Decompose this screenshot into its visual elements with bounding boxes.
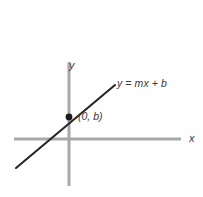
y-intercept-point-marker — [66, 114, 73, 121]
y-axis-label: y — [69, 60, 75, 71]
graph-canvas — [0, 0, 203, 197]
equation-label: y = mx + b — [117, 78, 167, 89]
x-axis-label: x — [189, 133, 195, 144]
y-intercept-point-label: (0, b) — [78, 111, 103, 122]
function-line — [16, 85, 115, 168]
linear-function-diagram: y x y = mx + b (0, b) — [0, 0, 203, 197]
